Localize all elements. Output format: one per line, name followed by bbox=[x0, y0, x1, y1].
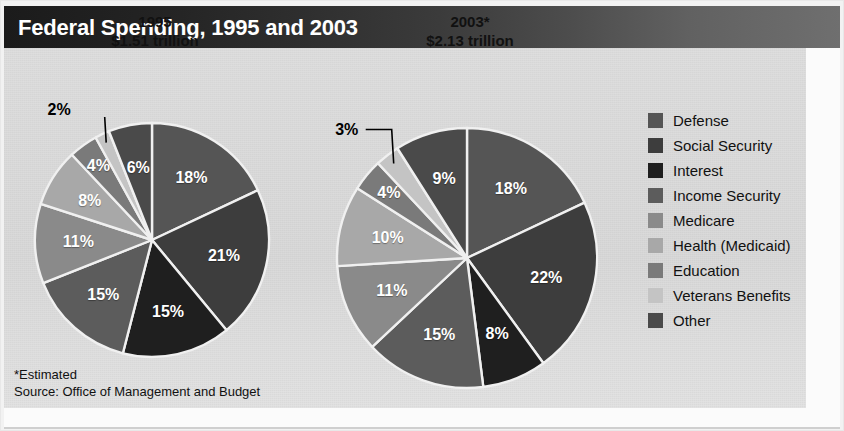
pie-slice-label: 18% bbox=[175, 169, 207, 187]
pie-slice-callout-label: 3% bbox=[335, 121, 358, 139]
legend-item-label: Defense bbox=[673, 112, 729, 129]
chart-heading-2003: 2003* $2.13 trillion bbox=[375, 12, 565, 50]
legend-swatch-icon bbox=[648, 213, 663, 228]
right-margin bbox=[806, 48, 840, 427]
legend-item-label: Veterans Benefits bbox=[673, 287, 791, 304]
legend-item-label: Other bbox=[673, 312, 711, 329]
legend-swatch-icon bbox=[648, 188, 663, 203]
legend-item: Medicare bbox=[648, 208, 791, 233]
legend-item: Other bbox=[648, 308, 791, 333]
pie-slice-label: 15% bbox=[423, 326, 455, 344]
legend-item-label: Income Security bbox=[673, 187, 781, 204]
pie-chart-1995: 18%21%15%15%11%8%4%2%6% bbox=[29, 117, 275, 363]
pie-slice-label: 9% bbox=[433, 170, 456, 188]
chart-subtitle-2003: $2.13 trillion bbox=[375, 31, 565, 50]
pie-slice-label: 22% bbox=[530, 269, 562, 287]
legend-item: Veterans Benefits bbox=[648, 283, 791, 308]
legend-item: Income Security bbox=[648, 183, 791, 208]
pie-slice-label: 10% bbox=[372, 229, 404, 247]
pie-slice-callout-label: 2% bbox=[48, 101, 71, 119]
legend: DefenseSocial SecurityInterestIncome Sec… bbox=[648, 108, 791, 333]
legend-item-label: Medicare bbox=[673, 212, 735, 229]
bottom-margin bbox=[4, 408, 840, 427]
pie-chart-2003: 18%22%8%15%11%10%4%3%9% bbox=[331, 122, 603, 394]
pie-slice-label: 15% bbox=[152, 303, 184, 321]
legend-swatch-icon bbox=[648, 163, 663, 178]
chart-heading-1995: 1995 $1.51 trillion bbox=[60, 12, 250, 50]
footnotes: *Estimated Source: Office of Management … bbox=[14, 366, 260, 400]
pie-slice-label: 4% bbox=[87, 157, 110, 175]
legend-item-label: Social Security bbox=[673, 137, 772, 154]
infographic-page: Federal Spending, 1995 and 2003 1995 $1.… bbox=[0, 0, 844, 431]
legend-item: Health (Medicaid) bbox=[648, 233, 791, 258]
legend-swatch-icon bbox=[648, 113, 663, 128]
legend-item-label: Interest bbox=[673, 162, 723, 179]
chart-subtitle-1995: $1.51 trillion bbox=[60, 31, 250, 50]
pie-slice-label: 6% bbox=[127, 159, 150, 177]
legend-swatch-icon bbox=[648, 138, 663, 153]
legend-item: Education bbox=[648, 258, 791, 283]
pie-slice-label: 18% bbox=[495, 180, 527, 198]
legend-item: Interest bbox=[648, 158, 791, 183]
legend-swatch-icon bbox=[648, 263, 663, 278]
pie-slice-label: 4% bbox=[377, 184, 400, 202]
legend-item-label: Health (Medicaid) bbox=[673, 237, 791, 254]
pie-slice-label: 21% bbox=[208, 247, 240, 265]
legend-item: Defense bbox=[648, 108, 791, 133]
pie-slice-label: 8% bbox=[78, 192, 101, 210]
legend-item: Social Security bbox=[648, 133, 791, 158]
legend-swatch-icon bbox=[648, 288, 663, 303]
pie-slice-label: 11% bbox=[63, 233, 94, 251]
legend-swatch-icon bbox=[648, 238, 663, 253]
pie-slice-label: 15% bbox=[87, 286, 119, 304]
source-note: Source: Office of Management and Budget bbox=[14, 383, 260, 400]
pie-svg bbox=[331, 122, 603, 394]
pie-slice-label: 8% bbox=[486, 325, 509, 343]
chart-title-1995: 1995 bbox=[60, 12, 250, 31]
estimated-note: *Estimated bbox=[14, 366, 260, 383]
legend-swatch-icon bbox=[648, 313, 663, 328]
legend-item-label: Education bbox=[673, 262, 740, 279]
pie-slice-label: 11% bbox=[376, 282, 407, 300]
chart-title-2003: 2003* bbox=[375, 12, 565, 31]
